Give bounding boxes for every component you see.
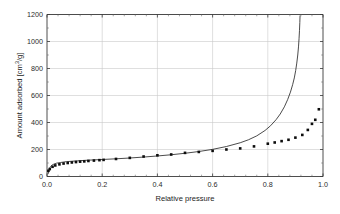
x-axis-title-text: Relative pressure <box>155 194 214 203</box>
x-tick-label: 0.2 <box>97 180 107 189</box>
x-tick-label: 1.0 <box>318 180 328 189</box>
data-point-marker <box>273 141 276 144</box>
data-point-marker <box>48 168 51 171</box>
data-point-marker <box>211 150 214 153</box>
data-point-marker <box>184 152 187 155</box>
model-curve <box>48 16 300 174</box>
data-point-marker <box>280 140 283 143</box>
data-point-marker <box>301 134 304 137</box>
data-point-marker <box>318 108 321 111</box>
data-point-marker <box>314 119 317 122</box>
data-point-marker <box>66 162 69 165</box>
data-point-marker <box>170 153 173 156</box>
data-point-marker <box>198 151 201 154</box>
data-point-marker <box>253 145 256 148</box>
data-point-marker <box>267 142 270 145</box>
data-point-marker <box>87 160 90 163</box>
data-point-marker <box>239 147 242 150</box>
data-point-marker <box>98 159 101 162</box>
x-tick-label: 0.8 <box>263 180 273 189</box>
y-tick-label: 800 <box>31 64 43 73</box>
data-point-marker <box>102 159 105 162</box>
x-axis-title: Relative pressure <box>155 194 214 203</box>
data-point-marker <box>93 159 96 162</box>
y-axis-title: Amount adsorbed [cm3/g] <box>14 53 23 139</box>
data-point-marker <box>62 162 65 165</box>
x-tick-label: 0.0 <box>42 180 52 189</box>
y-tick-label: 200 <box>31 145 43 154</box>
y-tick-label: 1200 <box>27 10 43 19</box>
model-curve-path <box>48 16 300 174</box>
y-axis-title-text: Amount adsorbed [cm3/g] <box>14 53 23 139</box>
data-point-marker <box>75 161 78 164</box>
data-point-markers <box>47 108 320 172</box>
data-point-marker <box>142 155 145 158</box>
data-point-marker <box>115 158 118 161</box>
data-point-marker <box>71 161 74 164</box>
data-point-marker <box>58 163 61 166</box>
data-point-marker <box>225 148 228 151</box>
data-point-marker <box>294 136 297 139</box>
y-tick-label: 600 <box>31 91 43 100</box>
data-point-marker <box>83 160 86 163</box>
data-point-marker <box>311 123 314 126</box>
x-tick-label: 0.6 <box>208 180 218 189</box>
data-point-marker <box>287 138 290 141</box>
data-point-marker <box>307 129 310 132</box>
data-point-marker <box>51 165 54 168</box>
data-point-marker <box>129 157 132 160</box>
y-tick-label: 400 <box>31 118 43 127</box>
data-point-marker <box>79 160 82 163</box>
adsorption-isotherm-chart: 0200400600800100012000.00.20.40.60.81.0 … <box>0 0 340 214</box>
data-point-marker <box>54 164 57 167</box>
x-tick-label: 0.4 <box>152 180 162 189</box>
data-point-marker <box>156 154 159 157</box>
figure-container: 0200400600800100012000.00.20.40.60.81.0 … <box>0 0 340 214</box>
y-tick-label: 1000 <box>27 37 43 46</box>
